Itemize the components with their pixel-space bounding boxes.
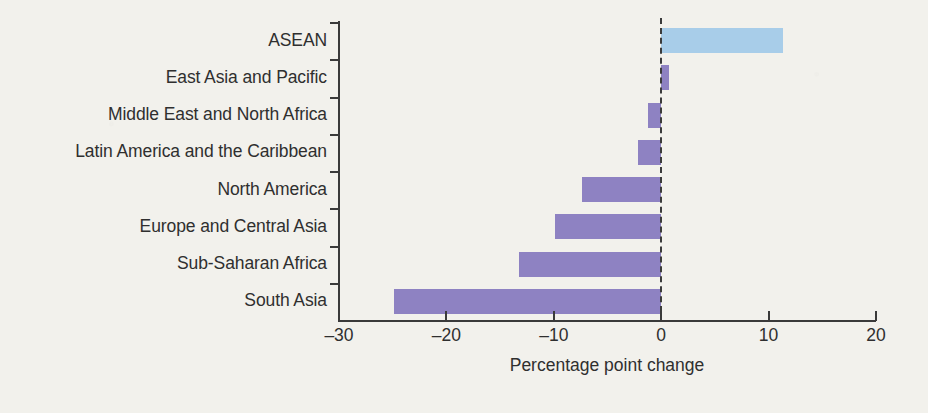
x-axis-tick	[875, 311, 877, 321]
x-axis-tick-label: 10	[734, 326, 804, 345]
x-axis-tick	[553, 311, 555, 321]
bar	[519, 252, 661, 277]
x-axis-tick-label: –30	[304, 326, 374, 345]
x-axis-title: Percentage point change	[338, 355, 876, 376]
x-axis-tick-label: 0	[626, 326, 696, 345]
x-axis-tick-label: 20	[841, 326, 911, 345]
x-axis-tick	[338, 311, 340, 321]
x-axis-tick	[445, 311, 447, 321]
x-axis-line	[338, 320, 876, 322]
x-axis-tick-label: –20	[411, 326, 481, 345]
bar	[555, 214, 661, 239]
zero-reference-line	[660, 18, 662, 322]
x-axis-tick-label: –10	[519, 326, 589, 345]
x-axis-tick	[660, 311, 662, 321]
x-axis-tick	[768, 311, 770, 321]
bar-chart-figure: ASEANEast Asia and PacificMiddle East an…	[0, 0, 928, 413]
bar	[661, 28, 782, 53]
bars-layer	[0, 0, 928, 413]
bar	[638, 140, 662, 165]
bar	[661, 65, 669, 90]
bar	[582, 177, 661, 202]
bar	[394, 289, 661, 314]
